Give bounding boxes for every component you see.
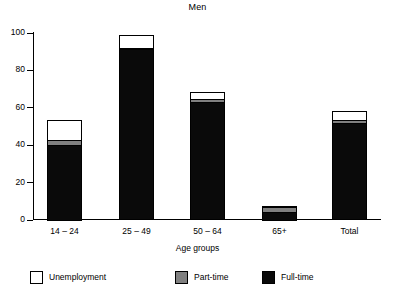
bar-segment-unemployment[interactable] bbox=[47, 120, 82, 141]
y-axis-tick-label-text: 0 bbox=[3, 215, 25, 224]
stacked-bar[interactable] bbox=[119, 35, 154, 220]
plot-area bbox=[33, 33, 381, 221]
y-axis-tick-label-text: 20 bbox=[3, 178, 25, 187]
legend-item[interactable]: Unemployment bbox=[30, 268, 106, 286]
x-axis-tick-label: Total bbox=[310, 226, 390, 236]
bar-group[interactable] bbox=[332, 33, 367, 221]
bar-segment-full-time[interactable] bbox=[262, 213, 297, 220]
y-axis-tick-label: 80 bbox=[0, 65, 25, 74]
x-axis-tick-label: 65+ bbox=[240, 226, 320, 236]
bar-segment-unemployment[interactable] bbox=[332, 111, 367, 120]
stacked-bar[interactable] bbox=[332, 111, 367, 220]
chart-title: Men bbox=[0, 2, 395, 12]
bar-segment-full-time[interactable] bbox=[190, 103, 225, 221]
stacked-bar[interactable] bbox=[262, 206, 297, 220]
bar-group[interactable] bbox=[262, 33, 297, 221]
legend-item-label: Unemployment bbox=[49, 272, 106, 282]
y-axis-tick-label: 40 bbox=[0, 140, 25, 149]
legend-item[interactable]: Full-time bbox=[262, 268, 314, 286]
y-axis-tick-label-text: 80 bbox=[3, 65, 25, 74]
bar-segment-full-time[interactable] bbox=[332, 124, 367, 220]
y-axis-tick-label-text: 60 bbox=[3, 103, 25, 112]
y-axis-tick-label-text: 40 bbox=[3, 140, 25, 149]
y-axis-tick-label: 0 bbox=[0, 215, 25, 224]
bar-chart-figure: Men 020406080100 14 – 2425 – 4950 – 6465… bbox=[0, 0, 395, 301]
x-axis-tick-label: 25 – 49 bbox=[97, 226, 177, 236]
chart-legend: UnemploymentPart-timeFull-time bbox=[30, 268, 370, 288]
bar-segment-full-time[interactable] bbox=[47, 146, 82, 221]
stacked-bar[interactable] bbox=[47, 120, 82, 221]
stacked-bar[interactable] bbox=[190, 92, 225, 220]
bar-group[interactable] bbox=[119, 33, 154, 221]
white-swatch-icon bbox=[30, 271, 43, 284]
black-swatch-icon bbox=[262, 271, 275, 284]
legend-item[interactable]: Part-time bbox=[175, 268, 228, 286]
gray-swatch-icon bbox=[175, 271, 188, 284]
y-axis-tick-label: 100 bbox=[0, 28, 25, 37]
y-axis-tick-label: 60 bbox=[0, 103, 25, 112]
x-axis-tick-label: 14 – 24 bbox=[25, 226, 105, 236]
x-axis-title: Age groups bbox=[0, 243, 395, 253]
y-axis-tick-label: 20 bbox=[0, 178, 25, 187]
bar-group[interactable] bbox=[190, 33, 225, 221]
legend-item-label: Full-time bbox=[281, 272, 314, 282]
bar-segment-full-time[interactable] bbox=[119, 50, 154, 220]
bar-group[interactable] bbox=[47, 33, 82, 221]
y-axis-tick-label-text: 100 bbox=[3, 28, 25, 37]
x-axis-tick-label: 50 – 64 bbox=[168, 226, 248, 236]
legend-item-label: Part-time bbox=[194, 272, 228, 282]
bar-segment-unemployment[interactable] bbox=[119, 35, 154, 47]
